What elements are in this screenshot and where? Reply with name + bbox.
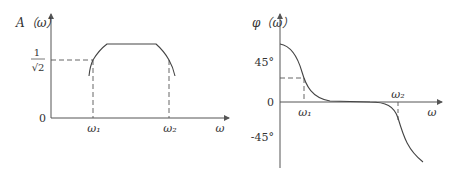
- phase-omega2-label: ω₂: [391, 88, 404, 101]
- y-tick-denominator: √2: [32, 62, 45, 73]
- amplitude-y-label: A（ω）: [15, 16, 58, 30]
- phase-plot: φ（ω） 45° 0 -45° ω₁ ω₂ ω: [251, 14, 442, 168]
- phase-x-label: ω: [428, 106, 437, 119]
- y-tick-numerator: 1: [34, 47, 40, 58]
- phase-omega1-label: ω₁: [298, 106, 311, 119]
- phase-y-label: φ（ω）: [252, 16, 294, 30]
- phase-tick-45: 45°: [255, 56, 275, 69]
- amplitude-omega2-label: ω₂: [163, 122, 176, 135]
- phase-tick-neg45: -45°: [251, 131, 274, 144]
- amplitude-plot: A（ω） 1 √2 0 ω₁ ω₂ ω: [15, 14, 229, 135]
- phase-curve: [280, 44, 423, 162]
- amplitude-omega1-label: ω₁: [87, 122, 100, 135]
- amplitude-curve: [89, 44, 175, 76]
- amplitude-x-label: ω: [216, 122, 225, 135]
- phase-origin-label: 0: [267, 96, 274, 109]
- amplitude-origin-label: 0: [39, 112, 46, 125]
- figure-canvas: A（ω） 1 √2 0 ω₁ ω₂ ω φ（ω） 45° 0 -45° ω₁ ω…: [0, 0, 458, 180]
